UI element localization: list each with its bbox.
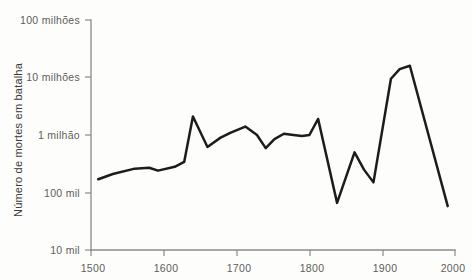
y-tick-label-100-mil: 100 mil bbox=[44, 187, 80, 199]
y-tick-label-1-milhao: 1 milhão bbox=[38, 129, 80, 141]
y-tick-label-10-milhoes: 10 milhões bbox=[26, 71, 80, 83]
x-tick-label-1800: 1800 bbox=[300, 262, 325, 274]
battle-deaths-chart: 100 milhões 10 milhões 1 milhão 100 mil … bbox=[0, 0, 472, 280]
y-tick-label-10-mil: 10 mil bbox=[50, 244, 80, 256]
y-tick-label-100-milhoes: 100 milhões bbox=[20, 14, 80, 26]
y-axis-title: Número de mortes em batalha bbox=[12, 62, 24, 217]
x-tick-labels: 1500 1600 1700 1800 1900 2000 bbox=[81, 262, 466, 274]
x-tick-label-2000: 2000 bbox=[441, 262, 466, 274]
x-axis bbox=[91, 250, 455, 256]
data-series-line bbox=[98, 66, 447, 206]
y-axis bbox=[85, 20, 91, 250]
x-tick-label-1700: 1700 bbox=[227, 262, 252, 274]
x-tick-label-1900: 1900 bbox=[373, 262, 398, 274]
x-tick-label-1500: 1500 bbox=[81, 262, 106, 274]
chart-canvas: 100 milhões 10 milhões 1 milhão 100 mil … bbox=[0, 0, 472, 280]
x-tick-label-1600: 1600 bbox=[154, 262, 179, 274]
y-tick-labels: 100 milhões 10 milhões 1 milhão 100 mil … bbox=[20, 14, 80, 256]
